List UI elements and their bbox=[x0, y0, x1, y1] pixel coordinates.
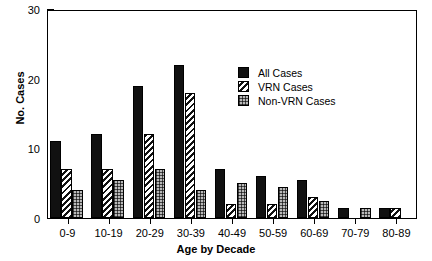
y-axis-title: No. Cases bbox=[14, 48, 26, 148]
bar-non-40-49 bbox=[237, 183, 248, 218]
bar-all-40-49 bbox=[215, 169, 226, 218]
y-tick-label: 0 bbox=[6, 214, 40, 224]
bar-all-50-59 bbox=[256, 176, 267, 218]
bar-vrn-10-19 bbox=[102, 169, 113, 218]
bar-vrn-30-39 bbox=[185, 93, 196, 218]
bar-non-70-79 bbox=[360, 208, 371, 218]
x-tick-mark bbox=[355, 219, 356, 224]
x-tick-label: 80-89 bbox=[372, 227, 420, 239]
legend-item-all: All Cases bbox=[238, 66, 336, 79]
bar-vrn-20-29 bbox=[144, 134, 155, 218]
bar-non-20-29 bbox=[155, 169, 166, 218]
bar-non-50-59 bbox=[278, 187, 289, 218]
bars-container bbox=[48, 11, 416, 218]
x-tick-mark bbox=[396, 219, 397, 224]
bar-all-20-29 bbox=[133, 86, 144, 218]
bar-all-30-39 bbox=[174, 65, 185, 218]
bar-all-10-19 bbox=[91, 134, 102, 218]
x-tick-mark bbox=[109, 219, 110, 224]
bar-vrn-50-59 bbox=[267, 204, 278, 218]
legend-swatch-all-icon bbox=[238, 67, 249, 78]
legend-item-non: Non-VRN Cases bbox=[238, 94, 336, 107]
bar-non-60-69 bbox=[319, 201, 330, 218]
legend-label: All Cases bbox=[258, 67, 302, 79]
bar-all-80-89 bbox=[379, 208, 390, 218]
x-tick-mark bbox=[150, 219, 151, 224]
x-tick-mark bbox=[314, 219, 315, 224]
bar-non-10-19 bbox=[113, 180, 124, 218]
x-tick-mark bbox=[191, 219, 192, 224]
y-tick-label: 10 bbox=[6, 144, 40, 154]
y-tick-label: 20 bbox=[6, 75, 40, 85]
x-axis-title: Age by Decade bbox=[0, 243, 432, 255]
bar-non-0-9 bbox=[72, 190, 83, 218]
bar-vrn-80-89 bbox=[390, 208, 401, 218]
x-tick-mark bbox=[273, 219, 274, 224]
x-tick-mark bbox=[232, 219, 233, 224]
legend-swatch-non-icon bbox=[238, 95, 249, 106]
legend-label: Non-VRN Cases bbox=[258, 95, 336, 107]
legend-item-vrn: VRN Cases bbox=[238, 80, 336, 93]
plot-area bbox=[47, 10, 417, 219]
bar-all-0-9 bbox=[50, 141, 61, 218]
bar-all-70-79 bbox=[338, 208, 349, 218]
bar-all-60-69 bbox=[297, 180, 308, 218]
chart-legend: All CasesVRN CasesNon-VRN Cases bbox=[238, 66, 336, 108]
bar-vrn-0-9 bbox=[61, 169, 72, 218]
legend-swatch-vrn-icon bbox=[238, 81, 249, 92]
y-tick-label: 30 bbox=[6, 5, 40, 15]
bar-vrn-60-69 bbox=[308, 197, 319, 218]
bar-chart-figure: No. Cases 0102030 0-910-1920-2930-3940-4… bbox=[0, 0, 432, 261]
x-tick-mark bbox=[68, 219, 69, 224]
bar-vrn-40-49 bbox=[226, 204, 237, 218]
bar-non-30-39 bbox=[196, 190, 207, 218]
legend-label: VRN Cases bbox=[258, 81, 313, 93]
